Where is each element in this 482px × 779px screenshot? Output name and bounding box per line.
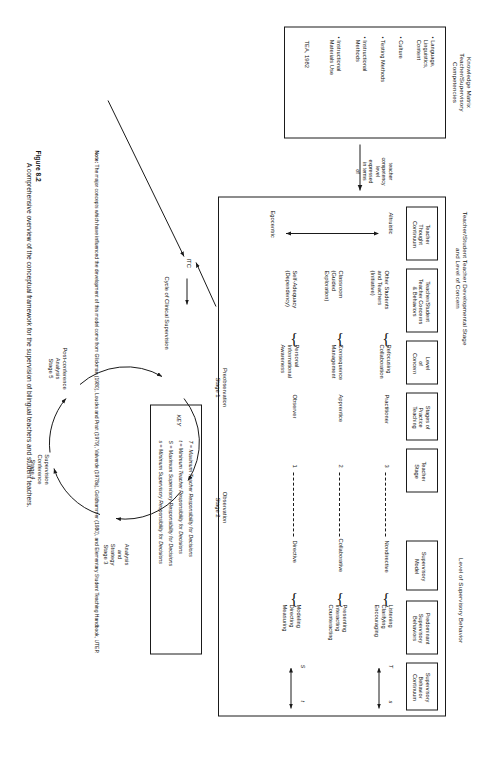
row-1-concern-behavior: Classroom (Guided Exploration) xyxy=(323,270,344,301)
row-0-behaviors: Listening Clarifying Encouraging xyxy=(373,604,394,637)
row-1-teacher-stage: 2 xyxy=(337,464,344,467)
thought-continuum-arrow-icon xyxy=(278,226,382,240)
col-stages-practice-label: Stages of Practice Teaching xyxy=(411,393,431,441)
col-predominant-behaviors-box: Predominant Supervisory Behaviors xyxy=(406,600,438,654)
header-knowledge-matrix: Knowledge Matrix Teacher/Supervisory Com… xyxy=(451,22,472,142)
cycle-stage-0: Preobservation Stage 1 xyxy=(214,352,228,422)
cycle-title: Cycle of Clinical Supervision xyxy=(163,276,170,349)
col-supervisory-model-box: Supervisory Model xyxy=(406,540,438,590)
col-concerns-label: Teacher/Student Teacher Concerns & Behav… xyxy=(411,269,431,333)
matrix-to-itc-arrow-icon xyxy=(104,96,190,266)
knowledge-item-0: • Language, Linguistics, Content xyxy=(415,36,436,68)
bridge-arrow-icon xyxy=(338,138,378,198)
knowledge-item-4: • Instructional Materials Use xyxy=(328,36,342,75)
continuum-marker-bottom-left: S xyxy=(299,664,306,668)
row-2-dash xyxy=(293,472,294,536)
row-2-concern-behavior: Self-Adequacy (Dependency) xyxy=(284,270,298,308)
continuum-marker-top-left: T xyxy=(387,664,394,668)
caption-text: A comprehensive overview of the conceptu… xyxy=(26,162,33,507)
row-2-teacher-stage: 1 xyxy=(291,464,298,467)
knowledge-matrix-source: TEA, 1982 xyxy=(303,40,310,67)
col-stages-practice-box: Stages of Practice Teaching xyxy=(406,392,438,440)
figure-caption: Figure 8.2 A comprehensive overview of t… xyxy=(24,150,42,480)
col-level-concern-box: Level of Concern xyxy=(406,340,438,384)
row-1-dash xyxy=(339,472,340,536)
row-0-concern-behavior: Other Students and Teachers (Initiative) xyxy=(369,270,390,309)
col-behavior-continuum-box: Supervisory Behavior Continuum xyxy=(406,662,438,710)
continuum-arrow-bottom-icon xyxy=(286,664,296,712)
knowledge-item-1: • Culture xyxy=(397,36,404,58)
col-teacher-stage-box: Teacher Stage xyxy=(406,448,438,492)
figure-rotation-wrapper: Knowledge Matrix Teacher/Supervisory Com… xyxy=(0,0,482,779)
row-0-supervisory-model: Nondirective xyxy=(383,540,390,572)
continuum-arrow-top-icon xyxy=(374,664,384,712)
continuum-marker-bottom-right: t xyxy=(299,700,306,702)
col-behavior-continuum-label: Supervisory Behavior Continuum xyxy=(411,663,431,711)
note-text: The major concepts which have influenced… xyxy=(94,164,100,653)
row-0-stage-practice: Practitioner xyxy=(383,394,390,423)
row-0-dash xyxy=(385,472,386,536)
row-0-level-concern: Refocusing Collaboration xyxy=(378,344,392,378)
caption-number: Figure 8.2 xyxy=(35,150,42,181)
knowledge-item-3: • Instructional Methods xyxy=(354,36,368,71)
col-teacher-thought-box: Teacher Thought Continuum xyxy=(406,206,438,260)
row-2-stage-practice: Observer xyxy=(291,394,298,418)
row-2-supervisory-model: Directive xyxy=(291,540,298,563)
col-supervisory-model-label: Supervisory Model xyxy=(414,541,427,591)
col-level-concern-label: Level of Concern xyxy=(411,341,431,385)
header-supervisory-behavior: Level of Supervisory Behavior xyxy=(457,500,464,700)
continuum-marker-top-right: s xyxy=(387,700,394,703)
note-block: Note: The major concepts which have infl… xyxy=(93,150,100,306)
continuum-bottom-label: Egocentric xyxy=(269,210,276,237)
cycle-stage-2: Analysis and Strategy Stage 3 xyxy=(102,524,130,584)
col-predominant-behaviors-label: Predominant Supervisory Behaviors xyxy=(411,601,431,655)
row-0-teacher-stage: 3 xyxy=(383,464,390,467)
row-2-behaviors: Modeling Directing Measuring xyxy=(281,604,302,631)
row-2-level-concern: Personal Informational Awareness xyxy=(279,344,300,378)
row-1-supervisory-model: Collaborative xyxy=(337,538,344,572)
continuum-top-label: Altruistic xyxy=(387,212,394,234)
row-1-behaviors: Presenting Interacting Counteracting xyxy=(327,604,348,640)
col-teacher-stage-label: Teacher Stage xyxy=(414,449,427,493)
row-1-level-concern: Consequence Management xyxy=(330,344,344,380)
note-label: Note: xyxy=(94,150,100,163)
row-1-stage-practice: Apprentice xyxy=(337,394,344,422)
figure-page: Knowledge Matrix Teacher/Supervisory Com… xyxy=(0,0,482,779)
knowledge-item-2: • Testing Methods xyxy=(379,36,386,82)
col-teacher-thought-label: Teacher Thought Continuum xyxy=(411,207,431,261)
cycle-stage-4: Post-conference Analysis Stage 5 xyxy=(47,330,68,406)
panel-to-itc-arrow-icon xyxy=(190,252,218,312)
header-developmental-stage: Teacher/Student Teacher Developmental St… xyxy=(454,168,468,388)
col-concerns-box: Teacher/Student Teacher Concerns & Behav… xyxy=(406,268,438,332)
cycle-stage-1: Observation Stage 2 xyxy=(214,472,228,542)
